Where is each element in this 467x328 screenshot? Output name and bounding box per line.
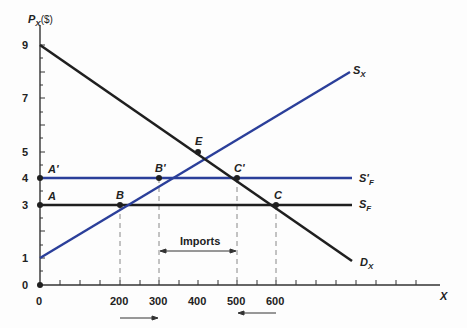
y-ticks — [40, 45, 45, 271]
imports-label: Imports — [180, 235, 220, 247]
sx-label: SX — [353, 64, 366, 79]
y-label-4: 4 — [22, 172, 29, 184]
point-b — [117, 202, 123, 208]
point-a — [37, 202, 43, 208]
left-arrowhead — [238, 311, 244, 315]
right-arrowhead — [152, 316, 158, 320]
label-c-prime: C' — [234, 162, 245, 174]
dx-label: DX — [360, 256, 374, 271]
y-label-9: 9 — [22, 39, 28, 51]
x-label-600: 600 — [266, 295, 284, 307]
x-label-500: 500 — [227, 295, 245, 307]
trade-chart: 0 1 3 4 5 7 9 0 200 300 400 500 600 PX($… — [0, 0, 467, 328]
dashed-guides — [120, 178, 276, 285]
point-c-prime — [234, 175, 240, 181]
y-label-7: 7 — [22, 92, 28, 104]
sf-label: SF — [359, 198, 372, 213]
y-label-0: 0 — [22, 279, 28, 291]
y-label-1: 1 — [22, 252, 28, 264]
x-label-300: 300 — [149, 295, 167, 307]
y-label-5: 5 — [22, 146, 28, 158]
label-b: B — [116, 189, 124, 201]
origin-point — [37, 282, 43, 288]
label-a: A — [47, 190, 56, 202]
y-label-3: 3 — [22, 199, 28, 211]
y-axis-title: PX($) — [28, 13, 53, 28]
point-a-prime — [37, 175, 43, 181]
point-e — [195, 149, 201, 155]
label-b-prime: B' — [155, 162, 166, 174]
sx-line — [40, 72, 350, 258]
x-label-200: 200 — [110, 295, 128, 307]
imports-arrow — [160, 249, 236, 253]
label-a-prime: A' — [47, 163, 59, 175]
point-b-prime — [156, 175, 162, 181]
x-label-0: 0 — [36, 295, 42, 307]
x-ticks — [60, 280, 416, 285]
x-label-400: 400 — [188, 295, 206, 307]
point-c — [273, 202, 279, 208]
bottom-arrows — [120, 311, 276, 320]
x-axis-title: X — [439, 290, 448, 302]
label-e: E — [195, 135, 203, 147]
label-c: C — [274, 189, 283, 201]
sfp-label: S'F — [359, 172, 375, 187]
